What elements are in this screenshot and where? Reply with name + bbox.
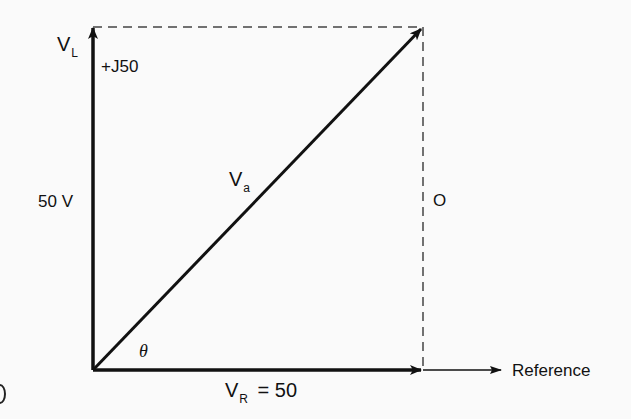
vl-label-main: V xyxy=(57,33,70,55)
va-label-sub: a xyxy=(243,181,250,195)
vl-magnitude-label: 50 V xyxy=(38,193,73,210)
vr-value-label: = 50 xyxy=(258,379,297,401)
va-label-main: V xyxy=(229,168,242,190)
reference-label: Reference xyxy=(512,362,590,379)
vr-label: VR = 50 xyxy=(225,380,297,400)
va-label: Va xyxy=(229,169,250,189)
vr-label-sub: R xyxy=(239,392,248,406)
theta-angle-label: θ xyxy=(139,342,148,360)
va-vector-arrow xyxy=(93,29,421,370)
dashed-side-label: O xyxy=(433,192,446,209)
vl-value-label: +J50 xyxy=(101,58,138,75)
vl-label: VL xyxy=(57,34,78,54)
vl-label-sub: L xyxy=(71,46,78,60)
vr-label-main: V xyxy=(225,379,238,401)
phasor-diagram-canvas xyxy=(0,0,631,419)
